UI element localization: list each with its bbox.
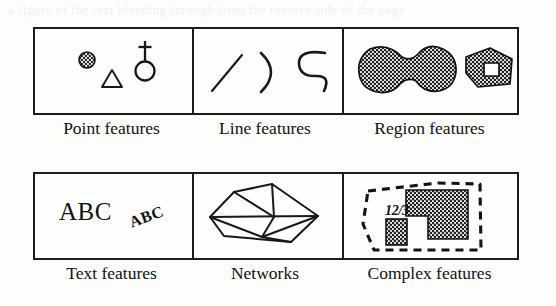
- cell-line-features: [192, 29, 342, 113]
- circle-with-cross-point-symbol: [136, 41, 155, 81]
- straight-line-segment: [212, 55, 242, 91]
- feature-box-row-top: [33, 27, 519, 115]
- spatial-features-figure: Point features Line features Region feat…: [0, 0, 556, 306]
- feature-box-row-bottom: ABC ABC: [33, 172, 519, 260]
- triangulated-network-graph: [194, 174, 342, 258]
- open-arc-curve: [261, 53, 271, 92]
- cell-networks: [192, 174, 342, 258]
- open-triangle-point-symbol: [102, 70, 122, 87]
- label-complex-features: Complex features: [340, 260, 519, 286]
- horizontal-text-label: ABC: [59, 198, 112, 226]
- point-features-illustration: [35, 29, 192, 113]
- parcel-annotation-text: 12/3: [385, 203, 409, 219]
- polygon-region-with-hole: [466, 48, 512, 87]
- feature-row-bottom: ABC ABC: [33, 172, 519, 286]
- label-text-features: Text features: [33, 260, 190, 286]
- label-line-features: Line features: [190, 115, 340, 141]
- feature-row-top: Point features Line features Region feat…: [33, 27, 519, 141]
- cell-text-features: ABC ABC: [35, 174, 192, 258]
- s-shaped-curve: [299, 52, 326, 91]
- complex-features-illustration: [344, 174, 517, 258]
- line-features-illustration: [194, 29, 342, 113]
- feature-label-row-bottom: Text features Networks Complex features: [33, 260, 519, 286]
- rotated-text-label: ABC: [127, 202, 166, 231]
- label-region-features: Region features: [340, 115, 519, 141]
- cell-complex-features: 12/3: [342, 174, 517, 258]
- feature-label-row-top: Point features Line features Region feat…: [33, 115, 519, 141]
- region-features-illustration: [344, 29, 517, 113]
- label-point-features: Point features: [33, 115, 190, 141]
- cell-region-features: [342, 29, 517, 113]
- small-filled-rectangle: [386, 219, 407, 245]
- cell-point-features: [35, 29, 192, 113]
- peanut-shaped-filled-region: [359, 46, 456, 92]
- label-networks: Networks: [190, 260, 340, 286]
- filled-circle-point-symbol: [79, 52, 95, 68]
- l-shaped-filled-region: [406, 190, 468, 239]
